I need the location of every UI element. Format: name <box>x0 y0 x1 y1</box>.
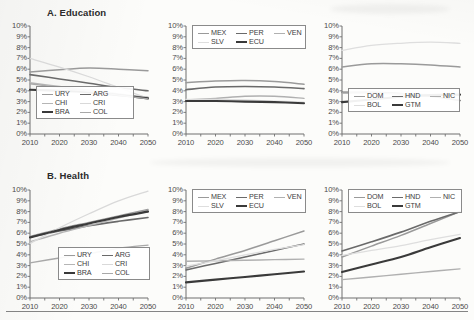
y-axis-tick-label: 3% <box>316 97 339 106</box>
y-axis-tick-label: 1% <box>4 282 27 291</box>
y-axis-tick-label: 1% <box>4 118 27 127</box>
legend-label: BRA <box>55 107 76 116</box>
series-line-dom <box>342 212 460 257</box>
legend-item-cri: CRI <box>78 98 116 107</box>
legend-item-ven: VEN <box>272 28 310 37</box>
y-axis-tick-label: 9% <box>4 196 27 205</box>
legend-swatch-icon <box>236 33 247 34</box>
legend-swatch-icon <box>236 197 247 198</box>
section-title-education: A. Education <box>47 7 106 18</box>
y-axis-tick-label: 7% <box>4 217 27 226</box>
legend-swatch-icon <box>42 94 53 95</box>
x-axis-tick-label: 2040 <box>418 302 444 311</box>
y-axis-tick-label: 1% <box>160 118 183 127</box>
series-line-dom <box>342 64 460 68</box>
x-axis-tick-label: 2050 <box>291 138 317 147</box>
y-axis-tick-label: 2% <box>316 107 339 116</box>
x-axis-tick-label: 2010 <box>173 138 199 147</box>
y-axis-tick-label: 10% <box>4 185 27 194</box>
x-axis-tick-label: 2010 <box>329 138 355 147</box>
x-axis-tick-label: 2050 <box>135 302 161 311</box>
y-axis-tick-label: 0% <box>316 129 339 138</box>
legend-swatch-icon <box>42 103 53 104</box>
legend-label: PER <box>249 28 270 37</box>
legend-swatch-icon <box>80 94 91 95</box>
legend-label: URY <box>77 250 98 259</box>
legend-swatch-icon <box>102 255 113 256</box>
chart-panel-3: 10%9%8%7%6%5%4%3%2%1%0%20102020203020402… <box>342 26 460 134</box>
legend-label: DOM <box>367 192 388 201</box>
legend-swatch-icon <box>392 96 403 97</box>
legend-item-chi: CHI <box>40 98 78 107</box>
legend-label: ECU <box>249 37 270 46</box>
y-axis-tick-label: 6% <box>4 228 27 237</box>
legend-label: MEX <box>211 28 232 37</box>
x-axis-tick-label: 2020 <box>47 302 73 311</box>
legend-item-arg: ARG <box>78 89 116 98</box>
x-axis-tick-label: 2050 <box>447 138 473 147</box>
legend-swatch-icon <box>354 105 365 106</box>
y-axis-tick-label: 9% <box>160 196 183 205</box>
y-axis-tick-label: 3% <box>160 97 183 106</box>
y-axis-tick-label: 6% <box>160 228 183 237</box>
legend-swatch-icon <box>274 197 285 198</box>
y-axis-tick-label: 10% <box>4 21 27 30</box>
y-axis-tick-label: 10% <box>160 21 183 30</box>
y-axis-tick-label: 9% <box>316 32 339 41</box>
y-axis-tick-label: 4% <box>4 250 27 259</box>
legend-swatch-icon <box>42 111 53 113</box>
legend-label: VEN <box>287 28 308 37</box>
legend-item-bra: BRA <box>40 107 78 116</box>
legend-swatch-icon <box>354 197 365 198</box>
x-axis-tick-label: 2040 <box>262 302 288 311</box>
legend-panel-6: DOMHNDNICBOLGTM <box>348 189 462 213</box>
plot-area-3 <box>342 26 460 134</box>
y-axis-tick-label: 8% <box>4 43 27 52</box>
series-line-ecu <box>186 272 304 283</box>
x-axis-tick-label: 2030 <box>232 302 258 311</box>
x-axis-tick-label: 2030 <box>388 138 414 147</box>
y-axis-tick-label: 5% <box>316 75 339 84</box>
y-axis-tick-label: 4% <box>316 250 339 259</box>
legend-swatch-icon <box>80 103 91 104</box>
legend-swatch-icon <box>64 264 75 265</box>
y-axis-tick-label: 2% <box>4 271 27 280</box>
y-axis-tick-label: 8% <box>160 207 183 216</box>
series-line-gtm <box>342 238 460 272</box>
y-axis-tick-label: 3% <box>4 97 27 106</box>
x-axis-tick-label: 2040 <box>106 302 132 311</box>
x-axis-tick-label: 2030 <box>388 302 414 311</box>
legend-label: ARG <box>115 250 136 259</box>
y-axis-tick-label: 0% <box>4 293 27 302</box>
legend-label: ECU <box>249 201 270 210</box>
x-axis-tick-label: 2050 <box>447 302 473 311</box>
figure-sheet: A. Education B. Health 10%9%8%7%6%5%4%3%… <box>0 0 474 320</box>
y-axis-tick-label: 10% <box>160 185 183 194</box>
x-axis-tick-label: 2010 <box>329 302 355 311</box>
legend-item-nic: NIC <box>428 91 466 100</box>
y-axis-tick-label: 10% <box>316 185 339 194</box>
legend-item-col: COL <box>100 268 138 277</box>
x-axis-tick-label: 2030 <box>232 138 258 147</box>
legend-swatch-icon <box>198 197 209 198</box>
legend-item-per: PER <box>234 192 272 201</box>
legend-label: GTM <box>405 100 426 109</box>
y-axis-tick-label: 0% <box>160 129 183 138</box>
legend-item-slv: SLV <box>196 37 234 46</box>
legend-item-nic: NIC <box>428 192 466 201</box>
series-line-bol <box>342 42 460 50</box>
y-axis-tick-label: 0% <box>4 129 27 138</box>
y-axis-tick-label: 5% <box>4 239 27 248</box>
y-axis-tick-label: 6% <box>160 64 183 73</box>
y-axis-tick-label: 5% <box>4 75 27 84</box>
y-axis-tick-label: 0% <box>160 293 183 302</box>
y-axis-tick-label: 1% <box>316 282 339 291</box>
legend-item-mex: MEX <box>196 192 234 201</box>
series-line-mex <box>186 81 304 85</box>
legend-label: BRA <box>77 268 98 277</box>
x-axis-tick-label: 2050 <box>135 138 161 147</box>
series-line-ven <box>186 259 304 261</box>
y-axis-tick-label: 0% <box>316 293 339 302</box>
series-line-bra <box>30 212 148 238</box>
legend-label: NIC <box>443 91 464 100</box>
